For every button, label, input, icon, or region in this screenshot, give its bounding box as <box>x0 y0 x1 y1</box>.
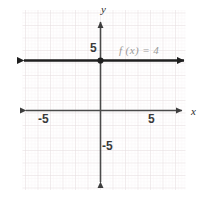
x-axis-label: x <box>191 106 196 117</box>
y-axis-label: y <box>101 4 106 15</box>
coordinate-plane-graph: y x 5 -5 -5 5 f (x) = 4 <box>0 0 208 203</box>
grid-lines <box>23 10 186 190</box>
tick-label-x-5: 5 <box>148 113 155 125</box>
tick-label-x-minus-5: -5 <box>38 113 49 125</box>
tick-label-y-minus-5: -5 <box>102 140 113 152</box>
function-annotation-label: f (x) = 4 <box>119 45 159 56</box>
y-intercept-point <box>97 57 103 63</box>
tick-label-y-5: 5 <box>90 42 97 54</box>
graph-canvas <box>0 0 208 203</box>
